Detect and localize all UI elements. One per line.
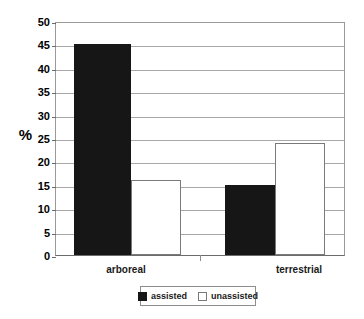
bar-arboreal-assisted: [74, 44, 131, 255]
y-axis-tick-label: 35: [22, 87, 50, 98]
y-axis-tick: [52, 46, 56, 47]
y-axis-tick-label: 50: [22, 17, 50, 28]
chart-legend: assisted unassisted: [140, 286, 256, 306]
y-axis-tick-label: 40: [22, 64, 50, 75]
bar-chart: % 50454035302520151050 arborealterrestri…: [0, 0, 364, 319]
legend-label-unassisted: unassisted: [211, 291, 258, 301]
y-axis-tick: [52, 163, 56, 164]
y-axis-tick: [52, 70, 56, 71]
y-axis-tick: [52, 257, 56, 258]
legend-swatch-icon-assisted: [138, 292, 147, 301]
y-axis-tick: [52, 93, 56, 94]
legend-item-unassisted: unassisted: [198, 291, 258, 301]
y-axis-tick: [52, 23, 56, 24]
y-axis-tick: [52, 234, 56, 235]
legend-item-assisted: assisted: [138, 291, 187, 301]
y-axis-tick: [52, 117, 56, 118]
y-axis-tick-label: 5: [22, 228, 50, 239]
legend-label-assisted: assisted: [151, 291, 187, 301]
y-axis-tick-label: 0: [22, 251, 50, 262]
category-label-terrestrial: terrestrial: [254, 264, 344, 276]
y-axis-tick: [52, 187, 56, 188]
category-separator-tick: [200, 255, 201, 261]
y-axis-tick-label: 25: [22, 134, 50, 145]
bar-arboreal-unassisted: [131, 180, 181, 255]
y-axis-tick: [52, 140, 56, 141]
y-axis-tick-label: 45: [22, 40, 50, 51]
y-axis-tick-label: 10: [22, 204, 50, 215]
y-axis-tick-label: 15: [22, 181, 50, 192]
y-axis-tick: [52, 210, 56, 211]
y-axis-tick-label: 30: [22, 111, 50, 122]
plot-area: [55, 22, 345, 256]
category-label-arboreal: arboreal: [81, 264, 171, 276]
legend-swatch-icon-unassisted: [198, 292, 207, 301]
y-axis-tick-label: 20: [22, 157, 50, 168]
bar-terrestrial-assisted: [225, 185, 275, 255]
bar-terrestrial-unassisted: [275, 143, 325, 255]
